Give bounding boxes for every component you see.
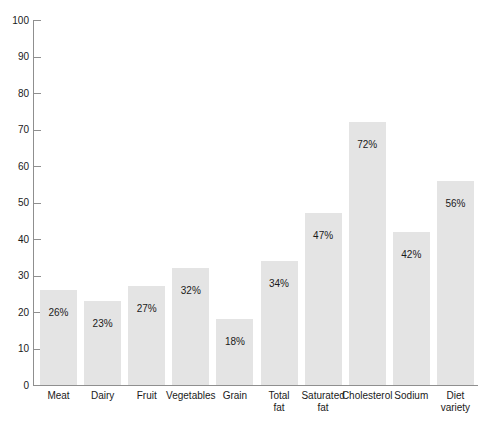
- bar-value-label: 18%: [216, 337, 253, 347]
- bar-value-label: 27%: [128, 304, 165, 314]
- bar-value-label: 42%: [393, 250, 430, 260]
- bar-value-label: 72%: [349, 140, 386, 150]
- bar-value-label: 47%: [305, 231, 342, 241]
- bar-value-label: 34%: [261, 279, 298, 289]
- bar-rect: [349, 122, 386, 385]
- bar-value-label: 56%: [437, 199, 474, 209]
- bar-rect: [84, 301, 121, 385]
- category-label-line: Diet: [428, 390, 482, 402]
- bar-chart: 0102030405060708090100 26%23%27%32%18%34…: [0, 0, 486, 424]
- bar-rect: [437, 181, 474, 385]
- category-label-line: variety: [428, 402, 482, 414]
- bar-value-label: 26%: [40, 308, 77, 318]
- bar-rect: [40, 290, 77, 385]
- bars-layer: 26%23%27%32%18%34%47%72%42%56%: [0, 0, 486, 424]
- category-label-line: fat: [296, 402, 350, 414]
- category-label-diet-variety: Dietvariety: [428, 390, 482, 414]
- bar-rect: [128, 286, 165, 385]
- bar-rect: [216, 319, 253, 385]
- bar-value-label: 23%: [84, 319, 121, 329]
- bar-value-label: 32%: [172, 286, 209, 296]
